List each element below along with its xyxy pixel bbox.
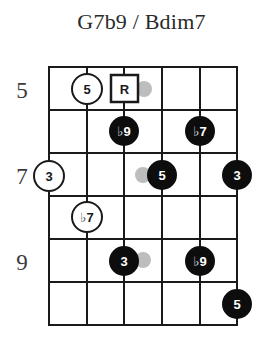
marker-label: 5 xyxy=(233,297,240,312)
marker-filled: ♭7 xyxy=(185,116,215,146)
marker-label: R xyxy=(120,82,130,97)
marker-label: 3 xyxy=(233,168,240,183)
marker-open-circle: 3 xyxy=(34,161,64,191)
marker-label: ♭9 xyxy=(117,124,130,139)
fret-label-7: 7 xyxy=(16,164,28,189)
marker-filled: 5 xyxy=(147,160,177,190)
marker-label: ♭7 xyxy=(80,210,93,225)
marker-label: 3 xyxy=(120,254,127,269)
marker-label: 5 xyxy=(83,82,90,97)
marker-label: ♭9 xyxy=(193,254,206,269)
marker-filled: ♭9 xyxy=(185,246,215,276)
fret-number-labels: 5 7 9 xyxy=(16,78,28,275)
fret-label-9: 9 xyxy=(16,250,28,275)
fretboard-diagram: 5 7 9 5 R ♭9 ♭7 3 xyxy=(0,0,277,344)
marker-open-circle: ♭7 xyxy=(72,202,102,232)
marker-root-square: R xyxy=(111,75,138,102)
marker-filled: ♭9 xyxy=(109,116,139,146)
marker-label: 5 xyxy=(158,168,165,183)
marker-filled: 3 xyxy=(109,246,139,276)
fret-label-5: 5 xyxy=(16,78,28,103)
marker-filled: 5 xyxy=(222,289,252,319)
marker-label: ♭7 xyxy=(193,124,206,139)
marker-filled: 3 xyxy=(222,160,252,190)
fretboard-grid xyxy=(48,67,238,325)
marker-label: 3 xyxy=(45,169,52,184)
marker-open-circle: 5 xyxy=(72,74,102,104)
